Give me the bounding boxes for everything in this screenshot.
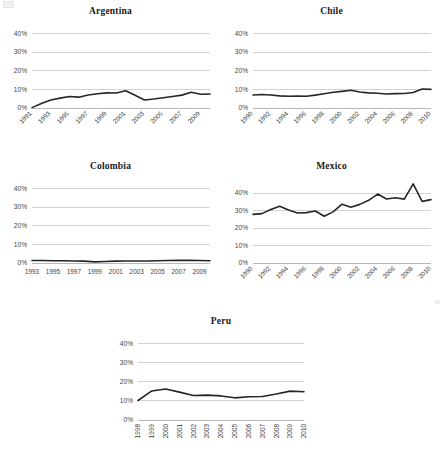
x-axis-tick-label: 2004 bbox=[363, 264, 378, 279]
x-axis-tick-label: 2008 bbox=[399, 109, 414, 124]
x-axis-tick-label: 2001 bbox=[109, 268, 124, 275]
x-axis-tick-label: 1993 bbox=[36, 109, 51, 124]
y-axis-tick-label: 20% bbox=[14, 222, 27, 229]
line-chart-mexico: 0%10%20%30%40%19901992199419961998200020… bbox=[221, 175, 442, 313]
panel-title-argentina: Argentina bbox=[0, 0, 221, 20]
x-axis-tick-label: 2003 bbox=[130, 268, 145, 275]
x-axis-tick-label: 2009 bbox=[286, 424, 293, 439]
x-axis-tick-label: 2005 bbox=[151, 268, 166, 275]
y-axis-tick-label: 40% bbox=[14, 185, 27, 192]
data-series-line bbox=[138, 389, 304, 400]
x-axis-tick-label: 2008 bbox=[273, 424, 280, 439]
line-chart-colombia: 0%10%20%30%40%19931995199719992001200320… bbox=[0, 175, 221, 313]
chart-panel-mexico: Mexico 0%10%20%30%40%1990199219941996199… bbox=[221, 155, 442, 310]
x-axis-tick-label: 1992 bbox=[257, 109, 272, 124]
x-axis-tick-label: 2000 bbox=[328, 109, 343, 124]
y-axis-tick-label: 0% bbox=[17, 259, 27, 266]
x-axis-tick-label: 1998 bbox=[134, 424, 141, 439]
x-axis-tick-label: 2001 bbox=[111, 109, 126, 124]
y-axis-tick-label: 30% bbox=[14, 203, 27, 210]
x-axis-tick-label: 2006 bbox=[381, 264, 396, 279]
chart-panel-argentina: Argentina 0%10%20%30%40%1991199319951997… bbox=[0, 0, 221, 155]
y-axis-tick-label: 30% bbox=[14, 48, 27, 55]
y-axis-tick-label: 10% bbox=[235, 242, 248, 249]
x-axis-tick-label: 1994 bbox=[274, 264, 289, 279]
x-axis-tick-label: 2007 bbox=[259, 424, 266, 439]
x-axis-tick-label: 2010 bbox=[417, 109, 432, 124]
x-axis-tick-label: 1999 bbox=[148, 424, 155, 439]
line-chart-chile: 0%10%20%30%40%19901992199419961998200020… bbox=[221, 20, 442, 158]
y-axis-tick-label: 10% bbox=[235, 86, 248, 93]
x-axis-tick-label: 2002 bbox=[190, 424, 197, 439]
y-axis-tick-label: 10% bbox=[14, 86, 27, 93]
x-axis-tick-label: 2007 bbox=[168, 109, 183, 124]
panel-title-colombia: Colombia bbox=[0, 155, 221, 175]
x-axis-tick-label: 1990 bbox=[239, 264, 254, 279]
y-axis-tick-label: 30% bbox=[235, 48, 248, 55]
y-axis-tick-label: 0% bbox=[238, 104, 248, 111]
line-chart-peru: 0%10%20%30%40%19981999200020012002200320… bbox=[0, 330, 442, 452]
x-axis-tick-label: 1998 bbox=[310, 264, 325, 279]
panel-title-mexico: Mexico bbox=[221, 155, 442, 175]
y-axis-tick-label: 30% bbox=[235, 207, 248, 214]
chart-panel-chile: Chile 0%10%20%30%40%19901992199419961998… bbox=[221, 0, 442, 155]
x-axis-tick-label: 2005 bbox=[231, 424, 238, 439]
line-chart-argentina: 0%10%20%30%40%19911993199519971999200120… bbox=[0, 20, 221, 158]
y-axis-tick-label: 20% bbox=[120, 378, 133, 385]
x-axis-tick-label: 2008 bbox=[399, 264, 414, 279]
x-axis-tick-label: 1991 bbox=[18, 109, 33, 124]
y-axis-tick-label: 40% bbox=[14, 30, 27, 37]
x-axis-tick-label: 1995 bbox=[46, 268, 61, 275]
x-axis-tick-label: 2000 bbox=[328, 264, 343, 279]
panel-title-peru: Peru bbox=[0, 310, 442, 330]
x-axis-tick-label: 2004 bbox=[363, 109, 378, 124]
x-axis-tick-label: 1996 bbox=[292, 109, 307, 124]
x-axis-tick-label: 1997 bbox=[67, 268, 82, 275]
y-axis-tick-label: 0% bbox=[17, 104, 27, 111]
panel-title-chile: Chile bbox=[221, 0, 442, 20]
chart-panel-peru: Peru 0%10%20%30%40%199819992000200120022… bbox=[0, 310, 442, 452]
x-axis-tick-label: 2002 bbox=[346, 109, 361, 124]
x-axis-tick-label: 1993 bbox=[25, 268, 40, 275]
x-axis-tick-label: 2006 bbox=[245, 424, 252, 439]
small-multiples-chart-grid: Argentina 0%10%20%30%40%1991199319951997… bbox=[0, 0, 442, 452]
x-axis-tick-label: 2003 bbox=[203, 424, 210, 439]
x-axis-tick-label: 1990 bbox=[239, 109, 254, 124]
data-series-line bbox=[253, 184, 431, 216]
y-axis-tick-label: 30% bbox=[120, 359, 133, 366]
data-series-line bbox=[253, 89, 431, 96]
y-axis-tick-label: 20% bbox=[235, 224, 248, 231]
y-axis-tick-label: 40% bbox=[235, 189, 248, 196]
plot-area-argentina: 0%10%20%30%40%19911993199519971999200120… bbox=[0, 20, 221, 158]
plot-area-colombia: 0%10%20%30%40%19931995199719992001200320… bbox=[0, 175, 221, 313]
y-axis-tick-label: 20% bbox=[14, 67, 27, 74]
x-axis-tick-label: 2005 bbox=[149, 109, 164, 124]
y-axis-tick-label: 0% bbox=[123, 416, 133, 423]
y-axis-tick-label: 20% bbox=[235, 67, 248, 74]
x-axis-tick-label: 1999 bbox=[88, 268, 103, 275]
x-axis-tick-label: 1998 bbox=[310, 109, 325, 124]
x-axis-tick-label: 1999 bbox=[93, 109, 108, 124]
x-axis-tick-label: 2006 bbox=[381, 109, 396, 124]
y-axis-tick-label: 10% bbox=[120, 397, 133, 404]
x-axis-tick-label: 2009 bbox=[186, 109, 201, 124]
y-axis-tick-label: 40% bbox=[120, 340, 133, 347]
x-axis-tick-label: 2010 bbox=[417, 264, 432, 279]
plot-area-chile: 0%10%20%30%40%19901992199419961998200020… bbox=[221, 20, 442, 158]
x-axis-tick-label: 1992 bbox=[257, 264, 272, 279]
x-axis-tick-label: 2009 bbox=[192, 268, 207, 275]
plot-area-peru: 0%10%20%30%40%19981999200020012002200320… bbox=[0, 330, 442, 452]
data-series-line bbox=[32, 260, 210, 262]
x-axis-tick-label: 2002 bbox=[346, 264, 361, 279]
chart-panel-colombia: Colombia 0%10%20%30%40%19931995199719992… bbox=[0, 155, 221, 310]
y-axis-tick-label: 40% bbox=[235, 30, 248, 37]
x-axis-tick-label: 1996 bbox=[292, 264, 307, 279]
x-axis-tick-label: 2000 bbox=[162, 424, 169, 439]
x-axis-tick-label: 2001 bbox=[176, 424, 183, 439]
x-axis-tick-label: 2003 bbox=[130, 109, 145, 124]
x-axis-tick-label: 1995 bbox=[55, 109, 70, 124]
x-axis-tick-label: 2010 bbox=[300, 424, 307, 439]
x-axis-tick-label: 2007 bbox=[171, 268, 186, 275]
y-axis-tick-label: 0% bbox=[238, 259, 248, 266]
x-axis-tick-label: 1994 bbox=[274, 109, 289, 124]
